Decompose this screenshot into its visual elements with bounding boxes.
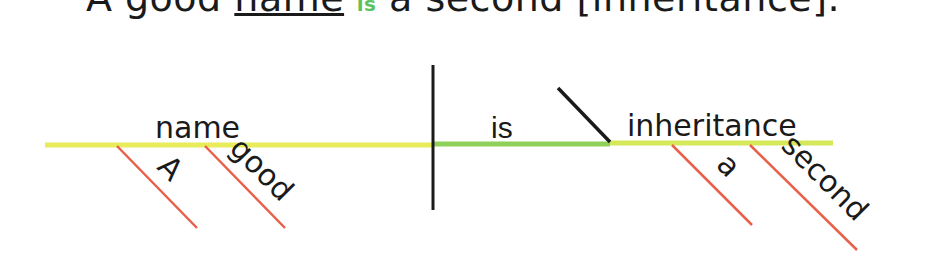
- modifier-word-a: A: [151, 148, 191, 188]
- predicate-nominative-slash: [558, 88, 610, 142]
- sentence-diagram: name is inheritance A good a second: [0, 0, 926, 272]
- predicate-nominative-word: inheritance: [627, 108, 797, 143]
- modifier-word-a-lower: a: [710, 146, 748, 184]
- verb-word: is: [491, 111, 513, 144]
- subject-word: name: [155, 110, 240, 145]
